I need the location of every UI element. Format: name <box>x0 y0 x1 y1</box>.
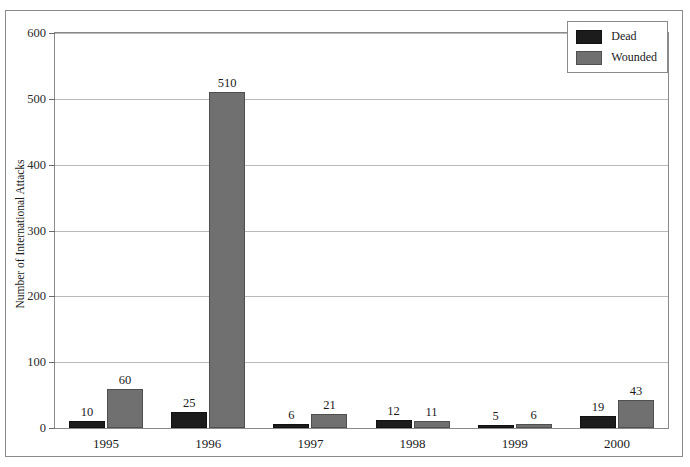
bar-dead-2000[interactable]: 19 <box>580 416 616 429</box>
bar-value-label: 510 <box>218 76 237 91</box>
legend-swatch-dead-icon <box>576 30 602 44</box>
bar-dead-1998[interactable]: 12 <box>376 420 412 428</box>
bar-value-label: 21 <box>323 398 336 413</box>
bar-group-1999: 561999 <box>464 33 566 428</box>
bar-wounded-1996[interactable]: 510 <box>209 92 245 428</box>
x-axis-label-1995: 1995 <box>93 436 119 452</box>
bar-group-1995: 10601995 <box>55 33 157 428</box>
chart-legend: Dead Wounded <box>567 21 668 73</box>
bar-wounded-1997[interactable]: 21 <box>311 414 347 428</box>
bar-value-label: 6 <box>288 408 294 423</box>
legend-label-dead: Dead <box>611 29 636 44</box>
bar-value-label: 19 <box>592 400 605 415</box>
y-axis-tick-label: 400 <box>27 157 46 172</box>
bar-value-label: 12 <box>387 404 400 419</box>
legend-swatch-wounded-icon <box>576 51 602 65</box>
bar-group-1996: 255101996 <box>157 33 259 428</box>
legend-item-wounded: Wounded <box>576 50 657 65</box>
figure-frame: Number of International Attacks 01002003… <box>5 10 683 457</box>
x-axis-label-1999: 1999 <box>502 436 528 452</box>
y-axis-tick-label: 200 <box>27 289 46 304</box>
bar-group-1997: 6211997 <box>259 33 361 428</box>
bar-group-1998: 12111998 <box>362 33 464 428</box>
bar-dead-1996[interactable]: 25 <box>171 412 207 428</box>
y-axis-tick-label: 500 <box>27 91 46 106</box>
chart-title-clipped <box>0 0 690 7</box>
bar-value-label: 60 <box>119 373 132 388</box>
y-axis-tick-label: 0 <box>40 421 46 436</box>
y-axis-tick <box>49 428 55 429</box>
x-axis-label-2000: 2000 <box>604 436 630 452</box>
legend-item-dead: Dead <box>576 29 657 44</box>
bar-wounded-2000[interactable]: 43 <box>618 400 654 428</box>
bar-value-label: 5 <box>493 409 499 424</box>
plot-area: 0100200300400500600106019952551019966211… <box>54 32 669 429</box>
bar-group-2000: 19432000 <box>566 33 668 428</box>
bar-value-label: 43 <box>630 384 643 399</box>
bar-wounded-1999[interactable]: 6 <box>516 424 552 428</box>
bar-wounded-1998[interactable]: 11 <box>414 421 450 428</box>
bar-value-label: 10 <box>81 405 94 420</box>
x-axis-label-1996: 1996 <box>195 436 221 452</box>
legend-label-wounded: Wounded <box>611 50 657 65</box>
y-axis-title: Number of International Attacks <box>14 159 26 308</box>
y-axis-tick-label: 100 <box>27 355 46 370</box>
y-axis-tick-label: 300 <box>27 223 46 238</box>
bar-wounded-1995[interactable]: 60 <box>107 389 143 429</box>
y-axis-tick-label: 600 <box>27 26 46 41</box>
bar-value-label: 6 <box>531 408 537 423</box>
bar-value-label: 25 <box>183 396 196 411</box>
bar-value-label: 11 <box>426 405 438 420</box>
bar-dead-1997[interactable]: 6 <box>273 424 309 428</box>
x-axis-label-1997: 1997 <box>297 436 323 452</box>
x-axis-label-1998: 1998 <box>400 436 426 452</box>
bar-dead-1995[interactable]: 10 <box>69 421 105 428</box>
bar-dead-1999[interactable]: 5 <box>478 425 514 428</box>
